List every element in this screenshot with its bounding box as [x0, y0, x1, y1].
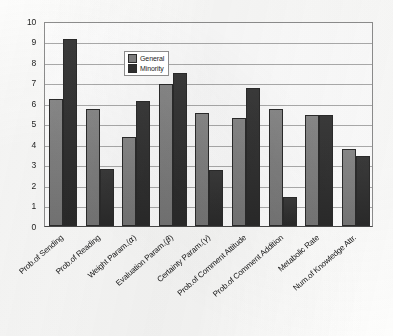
minority-swatch-icon: [128, 64, 137, 73]
y-tick-label: 5: [0, 119, 36, 129]
legend-item: General: [128, 54, 164, 63]
y-tick-label: 10: [0, 17, 36, 27]
bar-minority: [136, 101, 150, 226]
bar-general: [305, 115, 319, 226]
plot-area: [44, 22, 373, 227]
bar-general: [49, 99, 63, 226]
bar-group: [191, 23, 228, 226]
bar-minority: [246, 88, 260, 226]
y-tick-label: 7: [0, 78, 36, 88]
chart-legend: GeneralMinority: [124, 51, 169, 76]
bar-group: [337, 23, 374, 226]
legend-label: Minority: [140, 65, 164, 72]
bar-minority: [63, 39, 77, 226]
bar-minority: [356, 156, 370, 226]
bar-general: [232, 118, 246, 226]
bar-minority: [173, 73, 187, 226]
bar-group: [228, 23, 265, 226]
legend-item: Minority: [128, 64, 164, 73]
bar-minority: [100, 169, 114, 226]
y-tick-label: 1: [0, 201, 36, 211]
y-tick-label: 4: [0, 140, 36, 150]
bar-general: [269, 109, 283, 226]
bar-general: [195, 113, 209, 226]
bar-general: [159, 84, 173, 226]
y-tick-label: 9: [0, 37, 36, 47]
bar-group: [264, 23, 301, 226]
legend-label: General: [140, 55, 164, 62]
bar-general: [342, 149, 356, 226]
bar-minority: [319, 115, 333, 226]
bar-minority: [209, 170, 223, 226]
bar-group: [301, 23, 338, 226]
general-swatch-icon: [128, 54, 137, 63]
y-tick-label: 6: [0, 99, 36, 109]
bar-minority: [283, 197, 297, 226]
y-tick-label: 2: [0, 181, 36, 191]
y-tick-label: 3: [0, 160, 36, 170]
bar-group: [82, 23, 119, 226]
bars-layer: [45, 23, 372, 226]
bar-general: [86, 109, 100, 226]
y-tick-label: 0: [0, 222, 36, 232]
bar-group: [45, 23, 82, 226]
bar-chart-figure: 109876543210 GeneralMinority Prob.of Sen…: [0, 0, 393, 336]
bar-general: [122, 137, 136, 226]
y-tick-label: 8: [0, 58, 36, 68]
